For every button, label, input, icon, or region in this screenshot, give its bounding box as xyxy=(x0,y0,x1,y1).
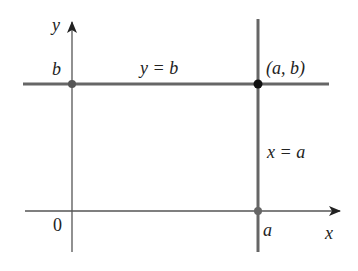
y-axis-label: y xyxy=(50,15,60,35)
diagram-svg: y x 0 b a y = b x = a (a, b) xyxy=(0,0,358,271)
coordinate-plane-diagram: y x 0 b a y = b x = a (a, b) xyxy=(0,0,358,271)
origin-label: 0 xyxy=(53,215,62,235)
x-axis-label: x xyxy=(324,223,333,243)
x-equals-a-label: x = a xyxy=(266,142,305,162)
y-equals-b-label: y = b xyxy=(138,58,178,78)
b-tick-label: b xyxy=(52,59,61,79)
intersection-label: (a, b) xyxy=(266,58,305,79)
point-b-on-y-axis xyxy=(68,80,76,88)
intersection-point xyxy=(254,80,263,89)
a-tick-label: a xyxy=(263,220,272,240)
point-a-on-x-axis xyxy=(254,207,262,215)
